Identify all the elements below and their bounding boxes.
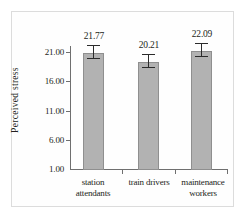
y-axis-title: Perceived stress: [10, 52, 20, 148]
value-label-station-attendants: 21.77: [68, 31, 120, 41]
error-bar-cap-top-maintenance-workers: [195, 43, 208, 44]
x-category-label-station-attendants: station attendants: [64, 177, 122, 199]
error-bar-line-train-drivers: [148, 54, 149, 68]
bar-train-drivers: [138, 62, 159, 170]
plot-area: Perceived stress 21.00 16.00 11.00 6.00 …: [0, 0, 245, 218]
y-tick-label-16: 16.00: [24, 76, 64, 86]
y-axis-line: [70, 46, 71, 170]
value-label-maintenance-workers: 22.09: [176, 29, 228, 39]
bar-station-attendants: [83, 53, 104, 170]
y-tick-label-6: 6.00: [24, 135, 64, 145]
x-tick-mark-2: [175, 170, 176, 174]
y-tick-label-11: 11.00: [24, 106, 64, 116]
error-bar-cap-top-train-drivers: [142, 54, 155, 55]
x-category-label-maintenance-workers: maintenance workers: [172, 177, 234, 199]
error-bar-cap-top-station-attendants: [87, 45, 100, 46]
error-bar-line-maintenance-workers: [201, 43, 202, 57]
x-category-label-line1: station: [64, 177, 122, 188]
figure-container: Perceived stress 21.00 16.00 11.00 6.00 …: [0, 0, 245, 218]
y-tick-mark-11: [66, 111, 71, 112]
x-category-label-train-drivers: train drivers: [120, 177, 178, 188]
y-tick-mark-6: [66, 140, 71, 141]
x-tick-mark-1: [122, 170, 123, 174]
error-bar-cap-bottom-maintenance-workers: [195, 56, 208, 57]
x-tick-mark-3: [227, 170, 228, 174]
x-category-label-line1: train drivers: [120, 177, 178, 188]
y-tick-mark-16: [66, 81, 71, 82]
value-label-train-drivers: 20.21: [123, 40, 175, 50]
bar-maintenance-workers: [191, 51, 212, 170]
y-tick-label-21: 21.00: [24, 47, 64, 57]
error-bar-line-station-attendants: [93, 45, 94, 59]
x-category-label-line2: attendants: [64, 188, 122, 199]
x-category-label-line2: workers: [172, 188, 234, 199]
error-bar-cap-bottom-station-attendants: [87, 58, 100, 59]
y-tick-mark-21: [66, 52, 71, 53]
y-tick-label-1: 1.00: [24, 164, 64, 174]
error-bar-cap-bottom-train-drivers: [142, 67, 155, 68]
x-category-label-line1: maintenance: [172, 177, 234, 188]
